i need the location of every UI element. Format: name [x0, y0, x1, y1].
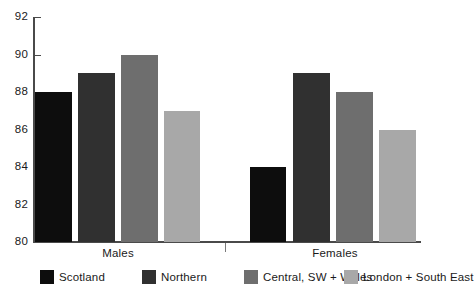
group-divider-tick [225, 243, 226, 252]
bar [250, 167, 286, 242]
bar [78, 73, 115, 242]
bar [379, 130, 416, 243]
group-label-females: Females [312, 247, 358, 260]
legend-swatch-icon [40, 270, 54, 284]
bar [35, 92, 72, 242]
legend-item[interactable]: Scotland [40, 268, 105, 286]
legend-label: London + South East [363, 271, 474, 284]
bar [121, 55, 158, 243]
legend-item[interactable]: Northern [142, 268, 207, 286]
legend-label: Scotland [59, 271, 105, 284]
bar [293, 73, 330, 242]
legend-item[interactable]: London + South East [344, 268, 474, 286]
legend-swatch-icon [244, 270, 258, 284]
bars-layer [0, 17, 431, 242]
bar [164, 111, 200, 242]
y-axis-tick [33, 242, 41, 243]
chart-legend: ScotlandNorthernCentral, SW + WalesLondo… [0, 268, 431, 290]
group-label-males: Males [102, 247, 134, 260]
legend-swatch-icon [142, 270, 156, 284]
legend-label: Northern [161, 271, 207, 284]
bar [336, 92, 373, 242]
legend-swatch-icon [344, 270, 358, 284]
